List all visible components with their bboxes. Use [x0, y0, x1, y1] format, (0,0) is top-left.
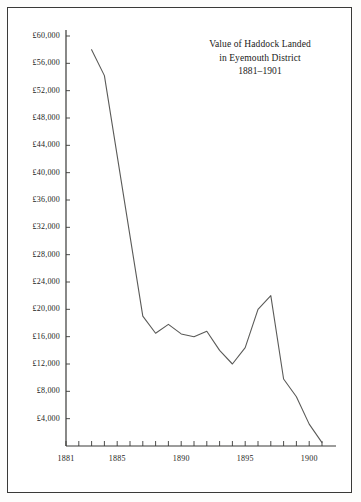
y-tick-label: £56,000 — [14, 58, 60, 67]
x-tick-label: 1895 — [230, 454, 260, 463]
y-tick-label: £40,000 — [14, 168, 60, 177]
y-tick-label: £36,000 — [14, 195, 60, 204]
chart-title-line-2: in Eyemouth District — [185, 52, 335, 66]
y-tick-label: £48,000 — [14, 113, 60, 122]
x-tick-label: 1900 — [294, 454, 324, 463]
chart-page: Value of Haddock Landed in Eyemouth Dist… — [0, 0, 361, 502]
chart-title-line-1: Value of Haddock Landed — [185, 38, 335, 52]
chart-title: Value of Haddock Landed in Eyemouth Dist… — [185, 38, 335, 79]
y-tick-label: £52,000 — [14, 86, 60, 95]
y-tick-label: £4,000 — [14, 414, 60, 423]
x-tick-label: 1881 — [51, 454, 81, 463]
x-tick-label: 1890 — [166, 454, 196, 463]
x-tick-label: 1885 — [102, 454, 132, 463]
y-tick-label: £32,000 — [14, 222, 60, 231]
y-tick-label: £60,000 — [14, 31, 60, 40]
y-tick-label: £44,000 — [14, 140, 60, 149]
y-tick-label: £24,000 — [14, 277, 60, 286]
axis-ticks — [66, 36, 322, 446]
axes-group — [66, 30, 336, 446]
y-tick-label: £8,000 — [14, 386, 60, 395]
data-line-haddock-value — [92, 50, 322, 443]
y-tick-label: £20,000 — [14, 304, 60, 313]
chart-title-line-3: 1881–1901 — [185, 65, 335, 79]
y-tick-label: £12,000 — [14, 359, 60, 368]
y-tick-label: £16,000 — [14, 332, 60, 341]
y-tick-label: £28,000 — [14, 250, 60, 259]
